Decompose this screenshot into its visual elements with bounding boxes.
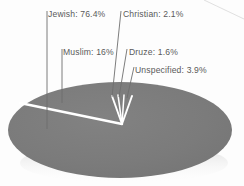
- pie-label-jewish: Jewish: 76.4%: [48, 9, 105, 19]
- pie-chart-canvas: [0, 0, 244, 186]
- pie-label-druze: Druze: 1.6%: [129, 47, 178, 57]
- pie-chart-figure: Jewish: 76.4% Christian: 2.1% Muslim: 16…: [0, 0, 244, 186]
- pie-label-unspecified: Unspecified: 3.9%: [135, 65, 207, 75]
- pie-disc: [8, 82, 232, 178]
- page-corner-rule: [204, 0, 244, 19]
- pie-label-muslim: Muslim: 16%: [63, 47, 114, 57]
- pie-label-christian: Christian: 2.1%: [123, 9, 184, 19]
